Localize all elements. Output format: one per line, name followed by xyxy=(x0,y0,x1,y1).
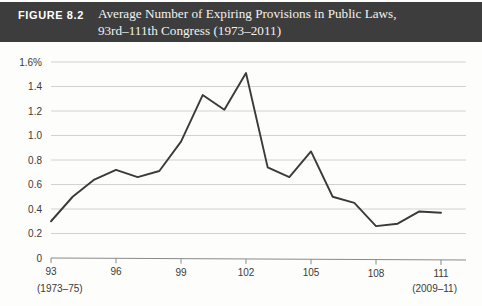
y-axis-tick-label: 0 xyxy=(36,253,42,264)
x-axis-tick-label: 108 xyxy=(368,268,385,279)
x-axis-tick-labels: 939699102105108111 xyxy=(45,266,449,279)
x-axis-tick-label: 111 xyxy=(433,268,449,279)
x-axis-sub-label: (2009–11) xyxy=(412,283,457,294)
y-axis-tick-label: 1.2 xyxy=(28,106,42,117)
x-axis-tick-label: 93 xyxy=(45,266,57,277)
x-axis-line xyxy=(51,258,466,260)
y-axis-tick-label: 0.4 xyxy=(28,204,42,215)
y-axis-tick-label: 1.0 xyxy=(28,130,42,141)
x-axis-sub-label: (1973–75) xyxy=(37,283,83,294)
figure-number-label: FIGURE 8.2 xyxy=(18,6,84,21)
y-axis-tick-label: 1.4 xyxy=(28,81,42,92)
figure-banner: FIGURE 8.2 Average Number of Expiring Pr… xyxy=(0,2,482,42)
x-axis-tick-label: 99 xyxy=(175,267,187,278)
x-axis xyxy=(51,258,466,265)
x-axis-tick-label: 105 xyxy=(303,267,320,278)
x-axis-tick-label: 96 xyxy=(110,266,122,277)
y-axis-tick-label: 0.2 xyxy=(28,228,42,239)
x-axis-sub-labels: (1973–75)(2009–11) xyxy=(37,283,457,294)
gridlines xyxy=(51,62,466,234)
figure-title-line-1: Average Number of Expiring Provisions in… xyxy=(98,6,397,23)
figure-title: Average Number of Expiring Provisions in… xyxy=(98,6,397,39)
line-chart: 00.20.40.60.81.01.21.41.6% 9396991021051… xyxy=(0,42,482,306)
chart-canvas: 00.20.40.60.81.01.21.41.6% 9396991021051… xyxy=(0,42,482,306)
y-axis-tick-label: 0.8 xyxy=(28,155,42,166)
y-axis-tick-label: 1.6% xyxy=(19,57,42,68)
y-axis-tick-label: 0.6 xyxy=(28,179,42,190)
x-axis-tick-label: 102 xyxy=(238,267,255,278)
figure-title-line-2: 93rd–111th Congress (1973–2011) xyxy=(98,23,397,40)
data-series-line xyxy=(51,73,441,226)
y-axis-tick-labels: 00.20.40.60.81.01.21.41.6% xyxy=(19,57,42,264)
